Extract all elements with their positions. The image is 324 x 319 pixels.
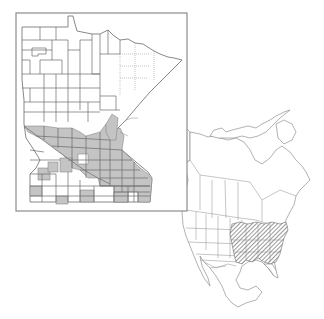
florida-outline (264, 264, 278, 278)
species-range-hatched (230, 222, 288, 264)
mainland-outline (182, 132, 310, 307)
greenland-edge (276, 120, 296, 144)
distribution-map (0, 0, 324, 319)
minnesota-inset (16, 13, 187, 211)
